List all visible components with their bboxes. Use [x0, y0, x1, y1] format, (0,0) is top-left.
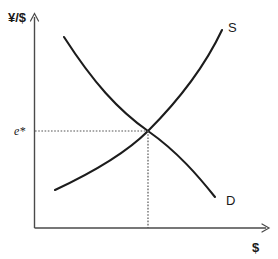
y-axis-label: ¥/$ [8, 10, 27, 25]
supply-demand-exchange-rate-chart: ¥/$ $ S D e* [0, 0, 278, 259]
supply-curve-label: S [228, 20, 237, 35]
chart-background [0, 0, 278, 259]
x-axis-label: $ [252, 240, 260, 255]
equilibrium-label: e* [14, 124, 25, 138]
demand-curve-label: D [226, 193, 235, 208]
